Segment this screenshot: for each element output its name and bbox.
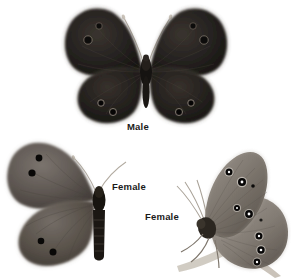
female-dorsal-figure xyxy=(4,138,126,274)
female-dorsal-hindwing xyxy=(18,201,94,266)
label-male: Male xyxy=(127,122,149,132)
specimen-female-dorsal xyxy=(4,138,126,274)
male-left-hindwing xyxy=(78,69,143,124)
female-dorsal-forewing xyxy=(7,143,94,209)
male-right-forewing xyxy=(150,8,227,76)
specimen-female-lateral xyxy=(175,148,291,278)
male-body xyxy=(140,55,152,108)
male-right-hindwing xyxy=(150,69,215,124)
specimen-plate: Male xyxy=(0,0,291,278)
male-antennae-clubs xyxy=(121,14,173,20)
male-left-forewing xyxy=(65,8,142,76)
female-dorsal-body xyxy=(93,186,106,261)
female-lateral-figure xyxy=(175,148,291,278)
label-female-lateral: Female xyxy=(145,212,179,222)
female-lateral-antennae xyxy=(177,180,208,222)
label-female-dorsal: Female xyxy=(112,182,146,192)
specimen-male-dorsal xyxy=(58,2,234,134)
male-butterfly-figure xyxy=(58,2,234,134)
